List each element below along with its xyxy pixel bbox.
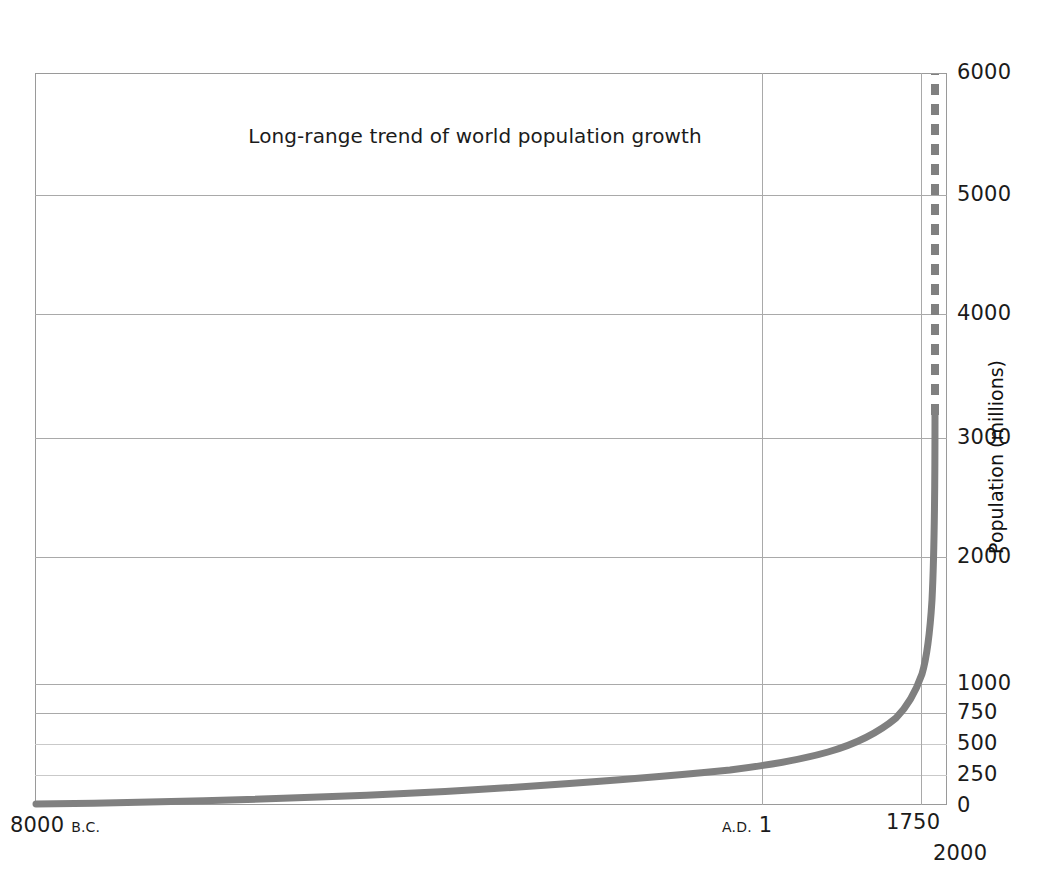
y-axis-title: Population (millions): [985, 360, 1007, 554]
gridline-y-500: [35, 744, 947, 745]
gridline-y-1000: [35, 684, 947, 685]
ytick-500: 500: [957, 733, 998, 754]
ytick-250: 250: [957, 764, 998, 785]
gridline-y-250: [35, 775, 947, 776]
gridline-y-4000: [35, 314, 947, 315]
plot-area: [35, 73, 947, 805]
xtick-8000-bc: 8000 B.C.: [10, 815, 100, 836]
xtick-2000: 2000: [933, 843, 987, 864]
gridline-y-750: [35, 713, 947, 714]
ytick-5000: 5000: [957, 184, 1011, 205]
xtick-8000-bc-number: 8000: [10, 813, 64, 837]
gridline-y-5000: [35, 195, 947, 196]
xtick-1750: 1750: [886, 812, 940, 833]
xtick-ad-1-era: A.D.: [722, 819, 752, 835]
xtick-8000-bc-era: B.C.: [71, 819, 100, 835]
xtick-2000-number: 2000: [933, 841, 987, 865]
ytick-4000: 4000: [957, 303, 1011, 324]
ytick-6000: 6000: [957, 62, 1011, 83]
gridline-x-1750: [921, 73, 922, 805]
ytick-1000: 1000: [957, 673, 1011, 694]
figure-container: Long-range trend of world population gro…: [0, 0, 1057, 896]
ytick-750: 750: [957, 702, 998, 723]
xtick-1750-number: 1750: [886, 810, 940, 834]
gridline-y-3000: [35, 438, 947, 439]
xtick-ad-1-number: 1: [759, 813, 773, 837]
gridline-y-2000: [35, 557, 947, 558]
chart-title: Long-range trend of world population gro…: [35, 124, 915, 148]
gridline-x-ad1: [762, 73, 763, 805]
xtick-ad-1: A.D. 1: [722, 815, 772, 836]
ytick-0: 0: [957, 795, 971, 816]
